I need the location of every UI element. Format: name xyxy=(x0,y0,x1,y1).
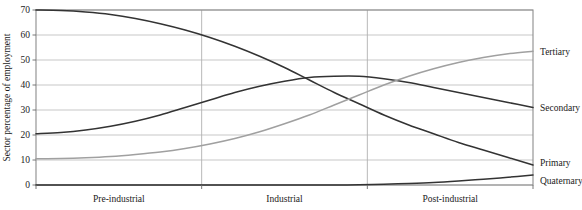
category-label-industrial: Industrial xyxy=(266,194,303,204)
y-tick-label: 0 xyxy=(25,180,30,190)
y-axis-title: Sector percentage of employment xyxy=(2,33,12,161)
category-label-post-industrial: Post-industrial xyxy=(422,194,478,204)
y-tick-label: 70 xyxy=(21,5,31,15)
series-label-tertiary: Tertiary xyxy=(540,47,570,57)
plot-frame xyxy=(36,10,533,185)
category-dividers xyxy=(202,10,368,185)
y-tick-label: 50 xyxy=(21,55,31,65)
y-tick-label: 30 xyxy=(21,105,31,115)
chart-container: 010203040506070 Pre-industrialIndustrial… xyxy=(0,0,582,210)
data-series-curves xyxy=(36,10,533,185)
gridlines xyxy=(36,10,533,185)
category-label-pre-industrial: Pre-industrial xyxy=(93,194,145,204)
y-tick-label: 20 xyxy=(21,130,31,140)
series-curve-primary xyxy=(36,10,533,165)
y-tick-label: 60 xyxy=(21,30,31,40)
y-tick-label: 10 xyxy=(21,155,31,165)
series-label-primary: Primary xyxy=(540,158,571,168)
series-label-quaternary: Quaternary xyxy=(540,176,582,186)
y-tick-label: 40 xyxy=(21,80,31,90)
series-end-labels: TertiarySecondaryPrimaryQuaternary xyxy=(540,47,582,187)
employment-sectors-line-chart: 010203040506070 Pre-industrialIndustrial… xyxy=(0,0,582,210)
series-label-secondary: Secondary xyxy=(540,103,580,113)
y-axis-tick-labels: 010203040506070 xyxy=(21,5,31,190)
series-curve-quaternary xyxy=(36,175,533,185)
x-axis-category-labels: Pre-industrialIndustrialPost-industrial xyxy=(93,194,478,204)
